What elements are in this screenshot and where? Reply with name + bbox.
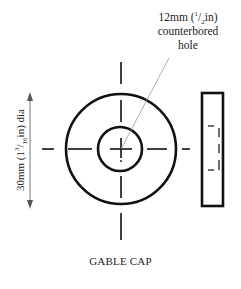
callout-line-1: 12mm (1/2in) — [138, 10, 238, 24]
gable-cap-drawing: 12mm (1/2in) counterbored hole 30mm (13/… — [0, 0, 241, 289]
figure-caption: GABLE CAP — [0, 255, 241, 267]
diameter-dimension-label: 30mm (13/16in) dia — [14, 109, 26, 191]
center-dot — [120, 160, 122, 162]
centerlines — [42, 62, 190, 240]
leader-line — [121, 58, 169, 149]
dimension-arrow — [27, 92, 33, 209]
callout-line-2: counterbored — [138, 24, 238, 38]
hole-callout: 12mm (1/2in) counterbored hole — [138, 10, 238, 52]
callout-line-3: hole — [138, 38, 238, 52]
side-view — [202, 93, 223, 206]
